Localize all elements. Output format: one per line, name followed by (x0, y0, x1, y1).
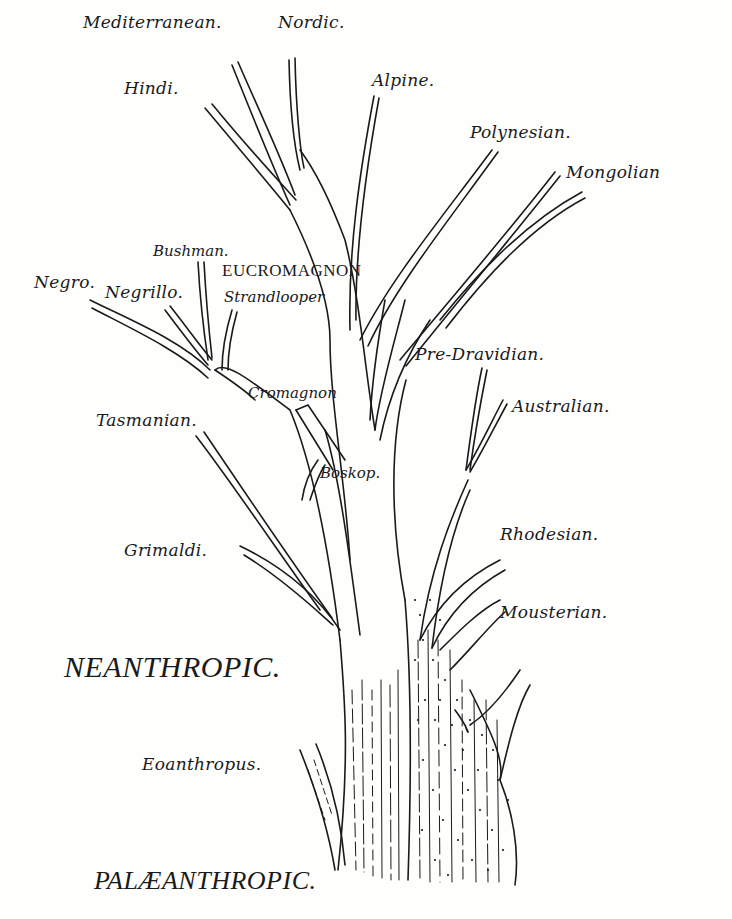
label-pre-dravidian: Pre-Dravidian. (415, 346, 544, 363)
label-hindi: Hindi. (124, 80, 179, 97)
label-alpine: Alpine. (372, 72, 435, 89)
label-eucromagnon: EUCROMAGNON (222, 262, 362, 279)
label-negro: Negro. (34, 274, 95, 291)
branch-mousterian (440, 600, 530, 780)
label-nordic: Nordic. (278, 14, 345, 31)
label-tasmanian: Tasmanian. (96, 412, 197, 429)
label-stage-palaeanthropic: PALÆANTHROPIC. (94, 868, 317, 894)
label-boskop: Boskop. (320, 466, 380, 481)
label-cromagnon: Cromagnon (248, 386, 337, 401)
label-stage-neanthropic: NEANTHROPIC. (64, 652, 281, 682)
diagram-canvas: Mediterranean. Nordic. Hindi. Alpine. Po… (0, 0, 732, 919)
label-strandlooper: Strandlooper (224, 290, 324, 305)
label-grimaldi: Grimaldi. (124, 542, 207, 559)
label-mediterranean: Mediterranean. (83, 14, 222, 31)
tree-branches (0, 0, 732, 919)
label-eoanthropus: Eoanthropus. (142, 756, 261, 773)
trunk (338, 600, 517, 885)
label-rhodesian: Rhodesian. (500, 526, 599, 543)
label-australian: Australian. (512, 398, 610, 415)
label-bushman: Bushman. (153, 244, 229, 259)
label-negrillo: Negrillo. (105, 284, 183, 301)
label-polynesian: Polynesian. (470, 124, 571, 141)
label-mousterian: Mousterian. (500, 604, 608, 621)
branch-eoanthropus (300, 744, 345, 870)
label-mongolian: Mongolian (566, 164, 660, 181)
